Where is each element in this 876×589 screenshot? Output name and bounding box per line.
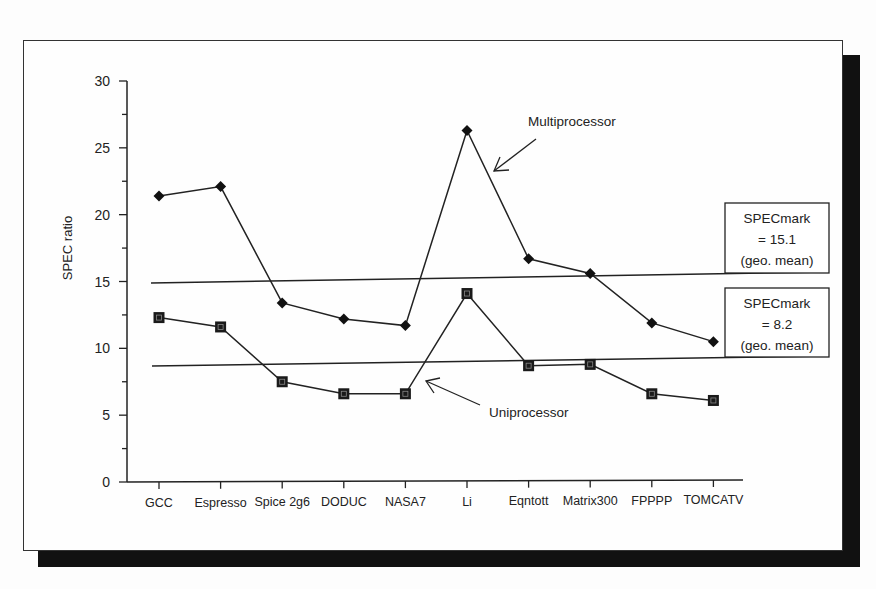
box1-line3: (geo. mean) (741, 253, 814, 268)
x-tick-label: TOMCATV (683, 493, 744, 507)
diamond-marker-icon (277, 297, 288, 308)
y-tick-label: 15 (94, 274, 110, 290)
uniprocessor-line (159, 294, 713, 401)
diamond-marker-icon (400, 320, 411, 331)
y-tick-label: 25 (94, 140, 110, 156)
x-tick-label: NASA7 (385, 495, 426, 509)
multiprocessor-annotation: Multiprocessor (528, 114, 616, 129)
x-tick-label: GCC (145, 496, 173, 510)
square-marker-icon (215, 321, 226, 332)
square-marker-icon (462, 288, 473, 299)
diamond-marker-icon (708, 336, 719, 347)
series-group (154, 125, 719, 406)
y-ticks: 051015202530 (94, 73, 127, 490)
square-marker-icon (708, 395, 719, 406)
box1-line2: = 15.1 (758, 232, 796, 247)
x-ticks: GCCEspressoSpice 2g6DODUCNASA7LiEqntottM… (145, 480, 744, 510)
specmark-multi-box: SPECmark = 15.1 (geo. mean) (725, 203, 829, 273)
x-tick-label: Espresso (195, 496, 247, 510)
y-tick-label: 5 (102, 407, 110, 423)
diamond-marker-icon (523, 253, 534, 264)
diamond-marker-icon (462, 125, 473, 136)
x-tick-label: Spice 2g6 (254, 495, 310, 509)
chart-plot: 051015202530 GCCEspressoSpice 2g6DODUCNA… (0, 0, 876, 589)
y-tick-label: 30 (94, 73, 110, 89)
box2-line2: = 8.2 (762, 317, 792, 332)
square-marker-icon (523, 360, 534, 371)
square-marker-icon (277, 376, 288, 387)
multiprocessor-line (159, 130, 713, 341)
square-marker-icon (154, 312, 165, 323)
square-marker-icon (585, 359, 596, 370)
diamond-marker-icon (215, 181, 226, 192)
square-marker-icon (646, 388, 657, 399)
box2-line1: SPECmark (744, 296, 811, 311)
x-tick-label: Matrix300 (563, 494, 618, 508)
square-marker-icon (400, 388, 411, 399)
diamond-marker-icon (154, 190, 165, 201)
x-tick-label: FPPPP (631, 494, 672, 508)
y-axis-title: SPEC ratio (60, 216, 75, 280)
x-tick-label: DODUC (321, 495, 367, 509)
uniprocessor-annotation: Uniprocessor (489, 405, 569, 420)
x-tick-label: Eqntott (509, 494, 549, 508)
square-marker-icon (338, 388, 349, 399)
x-axis-line (127, 480, 743, 482)
y-tick-label: 0 (102, 474, 110, 490)
y-tick-label: 20 (94, 207, 110, 223)
diamond-marker-icon (338, 313, 349, 324)
x-tick-label: Li (462, 495, 472, 509)
y-tick-label: 10 (94, 340, 110, 356)
multiprocessor-arrow-icon (494, 139, 536, 171)
box2-line3: (geo. mean) (741, 338, 814, 353)
specmark-uni-box: SPECmark = 8.2 (geo. mean) (725, 288, 829, 357)
box1-line1: SPECmark (744, 211, 811, 226)
uniprocessor-arrow-icon (426, 378, 480, 405)
